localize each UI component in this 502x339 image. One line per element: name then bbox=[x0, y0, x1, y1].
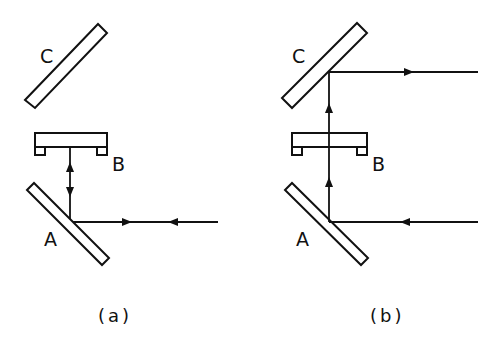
arrow-right-icon bbox=[122, 218, 132, 226]
arrow-left-icon bbox=[168, 218, 178, 226]
arrow-up-icon bbox=[66, 162, 74, 172]
caption-a: (a) bbox=[98, 305, 132, 326]
panel-b: C B A (b) bbox=[282, 23, 478, 326]
arrow-up-icon bbox=[325, 177, 333, 187]
optics-diagram: C B A (a) bbox=[0, 0, 502, 339]
mirror-a bbox=[285, 183, 368, 265]
mirror-a bbox=[27, 183, 109, 265]
label-c: C bbox=[40, 45, 53, 67]
label-a: A bbox=[44, 228, 57, 250]
arrow-down-icon bbox=[66, 187, 74, 197]
component-b bbox=[35, 133, 107, 155]
arrow-left-icon bbox=[400, 218, 410, 226]
label-b: B bbox=[372, 153, 385, 175]
arrow-right-icon bbox=[404, 68, 414, 76]
mirror-c bbox=[25, 24, 107, 108]
label-c: C bbox=[292, 45, 305, 67]
beam-path-a bbox=[66, 147, 218, 226]
panel-a: C B A (a) bbox=[25, 24, 218, 326]
label-b: B bbox=[112, 153, 125, 175]
arrow-up-icon bbox=[325, 103, 333, 113]
label-a: A bbox=[296, 228, 309, 250]
caption-b: (b) bbox=[370, 305, 404, 326]
